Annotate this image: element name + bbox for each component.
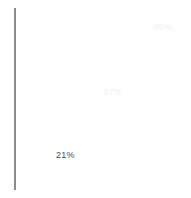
bar-value-label-3: 21% [56,150,75,159]
bar-value-label-1: 95% [153,23,172,32]
bar-row-1: 95% [15,14,178,40]
bar-row-2: 67% [15,79,128,104]
plot-area: 95% 67% 21% [0,0,191,198]
bar-chart: 95% 67% 21% [0,0,191,198]
bar-value-label-2: 67% [103,87,122,96]
bar-row-3: 21% [15,144,50,165]
